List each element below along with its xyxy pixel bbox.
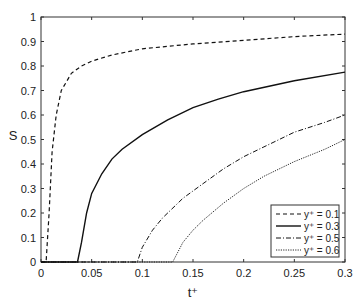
x-tick-label: 0.25 [284, 267, 305, 279]
legend-label: y⁺ = 0.5 [304, 233, 340, 244]
y-tick-label: 0.3 [21, 183, 36, 195]
x-axis-label: t⁺ [188, 285, 199, 300]
y-tick-label: 0.1 [21, 232, 36, 244]
y-tick-label: 0.2 [21, 207, 36, 219]
x-tick-label: 0.05 [81, 267, 102, 279]
y-tick-label: 0.6 [21, 109, 36, 121]
y-tick-label: 0.8 [21, 60, 36, 72]
y-tick-label: 0.5 [21, 134, 36, 146]
x-tick-label: 0.2 [236, 267, 251, 279]
x-tick-label: 0.3 [337, 267, 352, 279]
legend-label: y⁺ = 0.3 [304, 221, 340, 232]
legend-label: y⁺ = 0.1 [304, 209, 340, 220]
legend-label: y⁺ = 0.6 [304, 245, 340, 256]
y-tick-label: 0 [30, 256, 36, 268]
x-tick-label: 0.15 [182, 267, 203, 279]
x-tick-label: 0 [38, 267, 44, 279]
y-tick-label: 0.7 [21, 85, 36, 97]
y-tick-label: 1 [30, 11, 36, 23]
y-tick-label: 0.9 [21, 36, 36, 48]
line-chart: 00.10.20.30.40.50.60.70.80.91 00.050.10.… [0, 0, 363, 305]
y-tick-label: 0.4 [21, 158, 36, 170]
x-tick-label: 0.1 [135, 267, 150, 279]
legend: y⁺ = 0.1y⁺ = 0.3y⁺ = 0.5y⁺ = 0.6 [271, 205, 340, 257]
y-axis-label: S [9, 128, 18, 143]
